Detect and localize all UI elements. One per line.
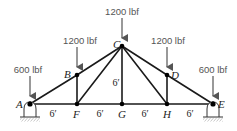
- joint-B: [75, 73, 80, 78]
- node-label-C: C: [113, 38, 121, 50]
- joint-D: [165, 73, 170, 78]
- node-label-H: H: [162, 108, 172, 120]
- truss-members: [30, 46, 213, 104]
- dimension-label-AF: 6′: [49, 108, 56, 119]
- member-FC: [77, 46, 122, 104]
- dimension-label-HE: 6′: [186, 108, 193, 119]
- member-BC: [77, 46, 122, 75]
- ground-hatch-icon: [203, 118, 223, 122]
- node-label-A: A: [15, 98, 23, 110]
- dimension-label-FG: 6′: [96, 108, 103, 119]
- dimension-label-GH: 6′: [141, 108, 148, 119]
- load-label-E: 600 lbf: [199, 64, 228, 75]
- node-label-E: E: [217, 98, 225, 110]
- load-label-C: 1200 lbf: [105, 6, 139, 17]
- member-CH: [122, 46, 167, 104]
- node-label-B: B: [64, 68, 71, 80]
- joint-G: [120, 102, 125, 107]
- load-label-B: 1200 lbf: [63, 35, 97, 46]
- dimension-label-GC: 6′: [112, 77, 119, 88]
- load-label-D: 1200 lbf: [151, 35, 185, 46]
- truss-diagram: 600 lbf 1200 lbf 1200 lbf 1200 lbf 600 l…: [0, 0, 237, 131]
- member-CD: [122, 46, 167, 75]
- joint-C: [120, 44, 125, 49]
- node-label-F: F: [72, 108, 80, 120]
- joint-H: [165, 102, 170, 107]
- node-label-G: G: [118, 108, 126, 120]
- joint-F: [75, 102, 80, 107]
- node-label-D: D: [170, 69, 179, 81]
- load-label-A: 600 lbf: [14, 64, 43, 75]
- ground-hatch-icon: [20, 118, 40, 122]
